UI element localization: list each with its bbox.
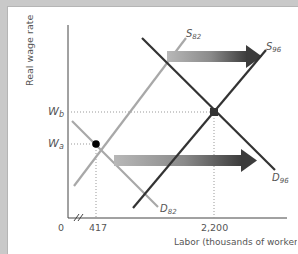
s96-label: S96 xyxy=(266,41,282,54)
wa-label: Wa xyxy=(48,137,64,151)
origin-label: 0 xyxy=(58,222,64,233)
wb-label: Wb xyxy=(48,105,64,119)
supply-curve-96 xyxy=(133,50,266,208)
demand-shift-arrow xyxy=(114,149,257,172)
d96-label: D96 xyxy=(272,172,289,185)
x-tick-2200: 2,200 xyxy=(201,222,228,233)
x-tick-417: 417 xyxy=(89,222,107,233)
supply-shift-arrow xyxy=(167,45,262,68)
s82-label: S82 xyxy=(186,28,202,41)
y-axis-label: Real wage rate xyxy=(24,15,35,86)
x-axis-label: Labor (thousands of workers) xyxy=(174,237,297,247)
d82-label: D82 xyxy=(160,203,177,216)
equilibrium-point-96 xyxy=(210,108,218,116)
equilibrium-point-82 xyxy=(92,140,100,148)
